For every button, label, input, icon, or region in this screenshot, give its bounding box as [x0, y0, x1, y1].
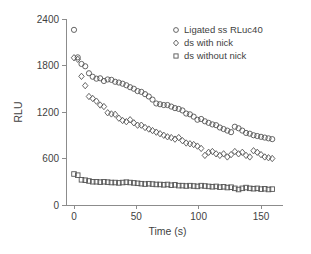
- data-point: [86, 93, 91, 99]
- data-point: [270, 137, 275, 142]
- y-tick-label: 600: [42, 153, 59, 164]
- data-point: [198, 145, 203, 151]
- x-tick-label: 100: [190, 211, 207, 222]
- scatter-plot: 0600120018002400050100150 Ligated ss RLu…: [0, 0, 311, 254]
- data-point: [139, 122, 144, 128]
- data-point: [79, 73, 84, 79]
- data-point: [135, 122, 140, 128]
- y-tick-label: 1800: [37, 60, 60, 71]
- y-tick-label: 0: [53, 200, 59, 211]
- data-point: [82, 82, 87, 88]
- x-axis-title: Time (s): [148, 225, 186, 237]
- data-point: [258, 151, 263, 157]
- x-tick-label: 50: [131, 211, 143, 222]
- y-tick-label: 2400: [37, 14, 60, 25]
- legend-label: Ligated ss RLuc40: [184, 24, 263, 35]
- legend-marker-circle: [174, 28, 179, 33]
- series-circle: [71, 27, 274, 141]
- legend-label: ds without nick: [184, 50, 247, 61]
- chart-legend: Ligated ss RLuc40ds with nickds without …: [173, 24, 262, 61]
- y-axis-title: RLU: [12, 101, 24, 122]
- chart-figure: 0600120018002400050100150 Ligated ss RLu…: [0, 0, 311, 254]
- x-tick-label: 150: [253, 211, 270, 222]
- legend-marker-square: [174, 54, 178, 58]
- axes: [66, 19, 283, 205]
- series-square: [72, 172, 275, 192]
- data-point: [98, 76, 103, 81]
- legend-label: ds with nick: [184, 37, 233, 48]
- axis-titles: Time (s)RLU: [12, 101, 187, 237]
- x-tick-label: 0: [71, 211, 77, 222]
- y-tick-label: 1200: [37, 107, 60, 118]
- legend-marker-diamond: [173, 40, 178, 46]
- data-point: [71, 27, 76, 32]
